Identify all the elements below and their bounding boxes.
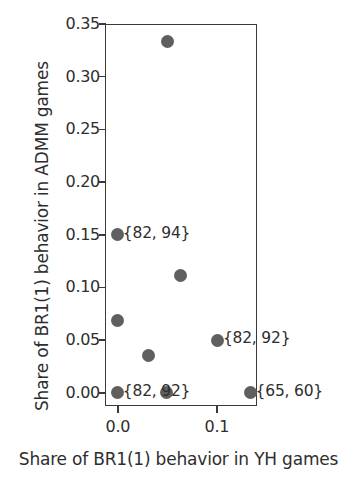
y-axis-tick-label: 0.35	[66, 16, 100, 32]
point-annotation: {82, 92}	[123, 384, 190, 400]
scatter-chart-figure: 0.000.050.100.150.200.250.300.35 Share o…	[0, 0, 357, 487]
plot-area	[105, 24, 257, 406]
point-annotation: {82, 94}	[123, 226, 190, 242]
y-axis-tick-label: 0.25	[66, 121, 100, 137]
y-axis-tick-label: 0.15	[66, 227, 100, 243]
x-axis-tick-label: 0.1	[205, 419, 230, 435]
y-axis-tick-mark	[99, 76, 106, 78]
y-axis-tick-label: 0.30	[66, 69, 100, 85]
y-axis-tick-mark	[99, 129, 106, 131]
point-annotation: {82, 92}	[223, 331, 290, 347]
y-axis-tick-label: 0.05	[66, 332, 100, 348]
y-axis-title: Share of BR1(1) behavior in ADMM games	[34, 61, 51, 411]
y-axis-tick-mark	[99, 23, 106, 25]
y-axis-tick-label: 0.10	[66, 279, 100, 295]
x-axis-tick-label: 0.0	[106, 419, 131, 435]
x-axis-title: Share of BR1(1) behavior in YH games	[0, 451, 357, 468]
x-axis-tick-mark	[117, 406, 119, 413]
x-axis-tick-mark	[216, 406, 218, 413]
y-axis-tick-label: 0.20	[66, 174, 100, 190]
y-axis-tick-mark	[99, 234, 106, 236]
scatter-point	[111, 314, 124, 327]
y-axis-tick-mark	[99, 339, 106, 341]
y-axis-tick-mark	[99, 181, 106, 183]
y-axis-tick-mark	[99, 287, 106, 289]
point-annotation: {65, 60}	[256, 384, 323, 400]
y-axis-tick-mark	[99, 392, 106, 394]
y-axis-tick-label: 0.00	[66, 385, 100, 401]
